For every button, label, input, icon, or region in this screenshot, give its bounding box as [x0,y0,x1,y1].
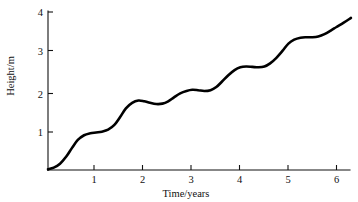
x-tick-label-6: 6 [334,174,339,185]
y-tick-label-3: 3 [38,46,43,57]
x-tick-label-5: 5 [285,174,290,185]
growth-curve-figure: 1 2 3 4 1 2 3 4 5 6 Time/years Height/m [0,0,358,202]
y-axis-ticks [48,12,53,132]
y-axis-tick-labels: 1 2 3 4 [38,7,44,138]
x-axis-tick-labels: 1 2 3 4 5 6 [91,174,339,185]
height-vs-time-curve [48,18,351,169]
x-axis-title: Time/years [163,188,210,199]
x-tick-label-2: 2 [140,174,145,185]
x-tick-label-3: 3 [188,174,193,185]
chart-canvas: 1 2 3 4 1 2 3 4 5 6 Time/years Height/m [0,0,358,202]
y-axis-title: Height/m [5,56,16,96]
y-tick-label-1: 1 [38,127,43,138]
x-tick-label-1: 1 [91,174,96,185]
x-axis-ticks [94,165,337,170]
y-tick-label-4: 4 [38,7,44,18]
y-tick-label-2: 2 [38,89,43,100]
x-tick-label-4: 4 [237,174,243,185]
